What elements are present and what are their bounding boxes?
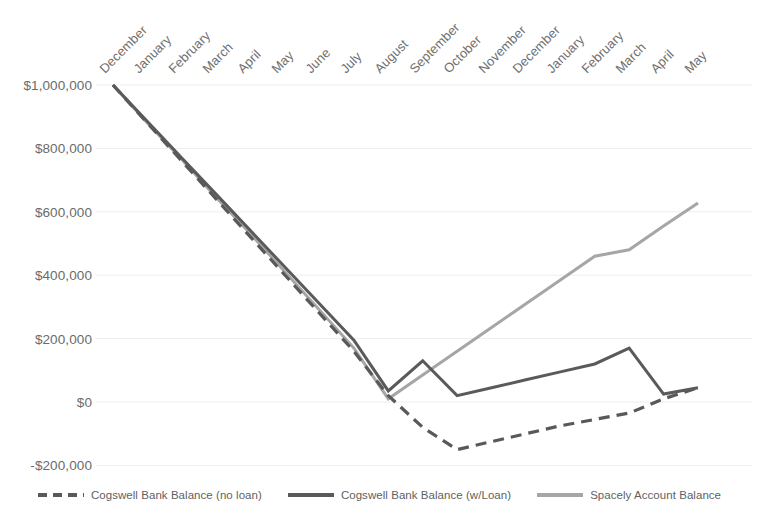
chart-legend: Cogswell Bank Balance (no loan)Cogswell … — [0, 482, 759, 508]
plot-svg — [0, 0, 759, 480]
series-lines — [113, 85, 698, 450]
legend-swatch-icon — [38, 493, 84, 497]
chart-container: $1,000,000$800,000$600,000$400,000$200,0… — [0, 0, 759, 512]
legend-label: Cogswell Bank Balance (no loan) — [91, 489, 262, 501]
series-line — [113, 85, 698, 399]
gridlines — [96, 85, 752, 465]
legend-item[interactable]: Spacely Account Balance — [537, 489, 721, 501]
series-line — [113, 85, 698, 450]
series-line — [113, 85, 698, 396]
plot-area — [0, 0, 759, 480]
legend-swatch-icon — [537, 493, 583, 497]
legend-label: Spacely Account Balance — [590, 489, 721, 501]
legend-label: Cogswell Bank Balance (w/Loan) — [341, 489, 511, 501]
legend-item[interactable]: Cogswell Bank Balance (no loan) — [38, 489, 262, 501]
legend-swatch-icon — [288, 493, 334, 497]
legend-item[interactable]: Cogswell Bank Balance (w/Loan) — [288, 489, 511, 501]
